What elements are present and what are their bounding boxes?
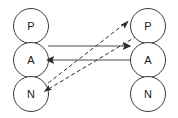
node-left-n-label: N: [27, 88, 35, 100]
edge-right-p-to-left-n: [44, 36, 137, 92]
node-left-a-label: A: [27, 54, 35, 66]
node-left-a[interactable]: A: [14, 43, 49, 78]
node-left-n[interactable]: N: [14, 77, 49, 112]
node-right-p[interactable]: P: [131, 9, 166, 44]
node-right-p-label: P: [144, 20, 151, 32]
node-right-n[interactable]: N: [131, 77, 166, 112]
pan-diagram-svg: P A N P A N: [0, 0, 178, 118]
node-right-a-label: A: [144, 54, 152, 66]
node-left-p[interactable]: P: [14, 9, 49, 44]
edge-line-dashed-descending: [46, 36, 137, 91]
edge-layer: [43, 21, 137, 92]
right-group: P A N: [131, 9, 166, 112]
arrowhead-overlay-layer: [44, 21, 131, 92]
node-right-a[interactable]: A: [131, 43, 166, 78]
edge-left-a-to-right-a: [48, 42, 131, 50]
node-right-n-label: N: [144, 88, 152, 100]
diagram-canvas: P A N P A N: [0, 0, 178, 118]
edge-left-n-to-right-p: [43, 21, 129, 87]
left-group: P A N: [14, 9, 49, 112]
edge-line-dashed-ascending: [43, 22, 127, 87]
arrowhead-right-p-overlay: [121, 21, 129, 29]
edge-right-a-to-left-a: [46, 56, 131, 64]
node-left-p-label: P: [27, 20, 34, 32]
